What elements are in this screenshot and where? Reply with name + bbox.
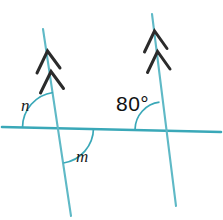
angle-label-m: m <box>76 147 88 167</box>
left-parallel-line <box>43 29 71 216</box>
angle-label-n: n <box>21 96 30 116</box>
transversal-line <box>2 127 221 132</box>
diagram-canvas <box>0 0 223 220</box>
geometry-diagram: n m 80° <box>0 0 223 220</box>
angle-label-80-degrees: 80° <box>116 92 149 116</box>
right-line-arrow-marks <box>145 31 171 73</box>
left-line-arrow-marks <box>37 51 64 93</box>
